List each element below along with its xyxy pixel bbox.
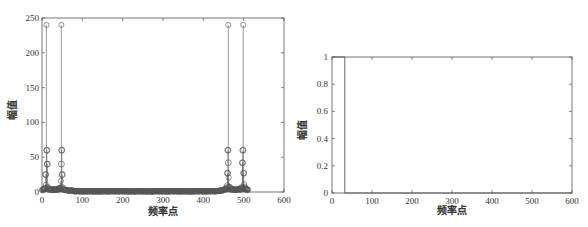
filter-response-chart: 0100200300400500600 00.20.40.60.81 频率点 幅… <box>294 0 588 227</box>
x-tick-label: 0 <box>40 195 45 205</box>
x-tick-label: 200 <box>116 195 130 205</box>
filter-x-label: 频率点 <box>437 204 467 216</box>
x-tick-label: 600 <box>565 196 579 206</box>
spectrum-x-ticks: 0100200300400500600 <box>40 18 292 205</box>
x-tick-label: 400 <box>197 195 211 205</box>
y-tick-label: 1 <box>324 52 329 62</box>
spectrum-y-label: 幅值 <box>6 100 18 120</box>
x-tick-label: 0 <box>330 196 335 206</box>
spectrum-x-label: 频率点 <box>148 205 178 217</box>
y-tick-label: 0.8 <box>317 79 329 89</box>
x-tick-label: 300 <box>156 195 170 205</box>
x-tick-label: 400 <box>485 196 499 206</box>
filter-axes-box <box>332 57 572 193</box>
x-tick-label: 500 <box>237 195 251 205</box>
y-tick-label: 0.4 <box>317 134 329 144</box>
y-tick-label: 0.6 <box>317 106 329 116</box>
filter-line <box>332 57 572 193</box>
filter-plot: 0100200300400500600 00.20.40.60.81 频率点 幅… <box>294 0 588 227</box>
x-tick-label: 200 <box>405 196 419 206</box>
y-tick-label: 200 <box>26 48 40 58</box>
spectrum-stems <box>39 22 250 194</box>
spectrum-plot: 0100200300400500600 050100150200250 频率点 … <box>0 0 294 227</box>
x-tick-label: 100 <box>76 195 90 205</box>
y-tick-label: 100 <box>26 117 40 127</box>
spectrum-chart: 0100200300400500600 050100150200250 频率点 … <box>0 0 294 227</box>
filter-y-label: 幅值 <box>296 120 308 140</box>
y-tick-label: 0 <box>35 187 40 197</box>
y-tick-label: 0.2 <box>317 161 328 171</box>
y-tick-label: 50 <box>30 152 40 162</box>
y-tick-label: 0 <box>324 188 329 198</box>
spectrum-y-ticks: 050100150200250 <box>26 13 285 197</box>
x-tick-label: 500 <box>525 196 539 206</box>
y-tick-label: 250 <box>26 13 40 23</box>
spectrum-axes-box <box>42 18 284 192</box>
filter-y-ticks: 00.20.40.60.81 <box>317 52 572 198</box>
x-tick-label: 600 <box>277 195 291 205</box>
x-tick-label: 100 <box>365 196 379 206</box>
filter-x-ticks: 0100200300400500600 <box>330 57 580 206</box>
y-tick-label: 150 <box>26 83 40 93</box>
